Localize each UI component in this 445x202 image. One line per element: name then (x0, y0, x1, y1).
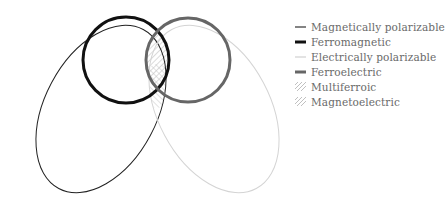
legend-label: Magnetoelectric (311, 96, 400, 108)
hatch-icon (294, 82, 307, 92)
legend-item-ferromagnetic: Ferromagnetic (294, 34, 445, 49)
legend-item-magnetically-polarizable: Magnetically polarizable (294, 19, 445, 34)
thick-black-line-icon (294, 37, 307, 47)
legend-label: Ferroelectric (311, 66, 382, 78)
legend-label: Electrically polarizable (311, 51, 436, 63)
legend-item-multiferroic: Multiferroic (294, 79, 445, 94)
legend-label: Multiferroic (311, 81, 376, 93)
legend-label: Ferromagnetic (311, 36, 391, 48)
legend-item-electrically-polarizable: Electrically polarizable (294, 49, 445, 64)
magnetically-polarizable-ellipse (9, 3, 192, 202)
electrically-polarizable-ellipse (122, 3, 290, 202)
legend-item-magnetoelectric: Magnetoelectric (294, 94, 445, 109)
hatch-icon (294, 97, 307, 107)
thin-light-line-icon (294, 52, 307, 62)
legend-label: Magnetically polarizable (311, 21, 445, 33)
thin-dark-line-icon (294, 22, 307, 32)
thick-gray-line-icon (294, 67, 307, 77)
venn-diagram (0, 0, 290, 202)
legend: Magnetically polarizable Ferromagnetic E… (294, 19, 445, 109)
legend-item-ferroelectric: Ferroelectric (294, 64, 445, 79)
